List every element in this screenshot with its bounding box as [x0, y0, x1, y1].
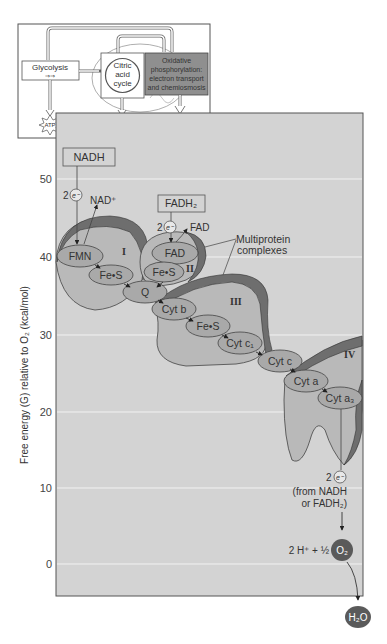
y-axis: 50 40 30 20 10 0 Free energy (G) relativ… — [19, 173, 52, 570]
fad-out-label: FAD — [190, 222, 209, 233]
cyt-c-label: Cyt c — [268, 355, 292, 367]
electron-symbol: e⁻ — [166, 224, 175, 231]
ytick: 30 — [40, 329, 52, 341]
ytick: 50 — [40, 173, 52, 185]
complex-III-label: III — [230, 296, 242, 307]
callout-line-2: complexes — [237, 244, 287, 256]
fadh2-label: FADH₂ — [165, 197, 197, 209]
electron-symbol: e⁻ — [72, 192, 81, 199]
from-line-2: or FADH₂) — [301, 498, 347, 509]
citric-label-3: cycle — [113, 79, 132, 88]
complex-II-label: II — [186, 263, 194, 274]
o2-label: O₂ — [336, 545, 348, 556]
electron-count: 2 — [157, 222, 163, 233]
ytick: 0 — [46, 558, 52, 570]
q-label: Q — [141, 286, 149, 298]
cyt-a-label: Cyt a — [294, 375, 319, 387]
electron-count: 2 — [63, 190, 69, 201]
h2o-label: H₂O — [349, 612, 368, 623]
citric-label-2: acid — [115, 70, 130, 79]
cyt-a3-label: Cyt a₃ — [326, 392, 355, 404]
citric-label-1: Citric — [113, 61, 131, 70]
fes-3-label: Fe•S — [197, 320, 220, 332]
oxidative-label-3: electron transport — [149, 75, 204, 83]
cyt-b-label: Cyt b — [162, 303, 187, 315]
complex-IV-label: IV — [344, 349, 356, 360]
electron-count: 2 — [326, 472, 332, 483]
oxidative-label-4: and chemiosmosis — [148, 84, 206, 91]
ytick: 10 — [40, 482, 52, 494]
fmn-label: FMN — [69, 250, 92, 262]
oxidative-label-1: Oxidative — [162, 57, 191, 64]
fad-label: FAD — [165, 247, 186, 259]
ytick: 20 — [40, 406, 52, 418]
oxidative-label-2: phosphorylation: — [151, 66, 202, 74]
etc-diagram: Glycolysis ⇒⇒ Citric acid cycle Oxidativ… — [0, 0, 387, 644]
nadh-label: NADH — [73, 151, 104, 163]
atp-label: ATP — [44, 122, 55, 128]
fes-1-label: Fe•S — [100, 269, 123, 281]
ytick: 40 — [40, 251, 52, 263]
electron-symbol: e⁻ — [336, 474, 345, 481]
cyt-c1-label: Cyt c₁ — [226, 337, 254, 349]
glycolysis-label: Glycolysis — [32, 63, 68, 72]
y-axis-label: Free energy (G) relative to O₂ (kcal/mol… — [19, 286, 30, 464]
nad-plus-label: NAD⁺ — [90, 195, 116, 206]
fes-2-label: Fe•S — [153, 266, 176, 278]
reaction-prefix: 2 H⁺ + ½ — [289, 545, 330, 556]
glycolysis-arrow-icon: ⇒⇒ — [45, 73, 55, 79]
from-line-1: (from NADH — [293, 486, 347, 497]
complex-I-label: I — [122, 246, 126, 257]
